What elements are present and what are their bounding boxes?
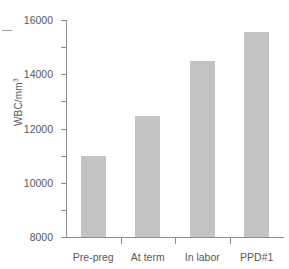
y-axis-title-superscript: 3: [12, 78, 19, 82]
y-axis-tick-label: 10000: [24, 177, 53, 189]
figure-edge-mark: [2, 30, 12, 31]
y-axis-tick-label: 16000: [24, 14, 53, 26]
y-axis-title-text: WBC/mm: [13, 82, 24, 126]
y-axis-line: [66, 20, 67, 237]
y-axis-tick: 6000: [61, 156, 66, 157]
bar: [135, 116, 160, 237]
y-axis-tick-label: 8000: [30, 231, 53, 243]
y-axis-tick: 12000: [61, 74, 66, 75]
figure-bar-chart: WBC/mm3 16000140001200010000800060004000…: [0, 0, 289, 269]
plot-area: 1600014000120001000080006000400020000 Pr…: [66, 20, 284, 237]
x-axis-separator: [175, 237, 176, 244]
x-axis-tick-label: PPD#1: [240, 251, 273, 263]
y-axis-tick: 14000: [61, 47, 66, 48]
x-axis-separator: [230, 237, 231, 244]
y-axis-tick-label: 12000: [24, 123, 53, 135]
bar: [81, 156, 106, 237]
y-axis-tick: 4000: [61, 183, 66, 184]
x-axis-tick-label: At term: [131, 251, 165, 263]
bar: [244, 32, 269, 237]
y-axis-tick: 10000: [61, 101, 66, 102]
bar: [190, 61, 215, 237]
y-axis-title: WBC/mm3: [12, 62, 24, 142]
y-axis-tick: 0: [61, 237, 66, 238]
y-axis-tick: 8000: [61, 129, 66, 130]
y-axis-tick: 2000: [61, 210, 66, 211]
y-axis-tick-label: 14000: [24, 68, 53, 80]
x-axis-separator: [121, 237, 122, 244]
y-axis-tick: 16000: [61, 20, 66, 21]
x-axis-tick-label: In labor: [185, 251, 220, 263]
x-axis-tick-label: Pre-preg: [73, 251, 114, 263]
